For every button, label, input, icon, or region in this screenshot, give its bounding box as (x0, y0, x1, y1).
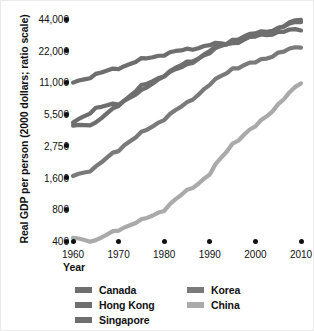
chart-figure: Real GDP per person (2000 dollars; ratio… (0, 0, 314, 331)
y-tick-dot (64, 80, 69, 85)
y-tick-dot (64, 17, 69, 22)
x-tick-dot (253, 239, 258, 244)
legend-item-label: Singapore (99, 314, 149, 326)
x-tick-dot (71, 239, 76, 244)
chart-legend: CanadaHong KongSingapore KoreaChina (75, 284, 295, 328)
x-tick-label: 2010 (290, 249, 312, 260)
legend-swatch-icon (75, 317, 92, 323)
legend-swatch-icon (187, 287, 204, 293)
legend-item[interactable]: Korea (187, 284, 295, 296)
x-tick-label: 1970 (107, 249, 129, 260)
y-tick-dot (64, 112, 69, 117)
legend-item[interactable]: Hong Kong (75, 299, 187, 311)
legend-swatch-icon (187, 302, 204, 308)
legend-swatch-icon (75, 302, 92, 308)
legend-item[interactable]: Canada (75, 284, 187, 296)
series-line-singapore (73, 22, 301, 126)
x-tick-dot (207, 239, 212, 244)
plot-area (1, 1, 314, 331)
legend-item-label: Korea (211, 284, 240, 296)
legend-column-right: KoreaChina (187, 284, 295, 328)
x-axis-title: Year (63, 261, 85, 273)
x-tick-label: 1960 (62, 249, 84, 260)
legend-item[interactable]: China (187, 299, 295, 311)
legend-item[interactable]: Singapore (75, 314, 187, 326)
x-tick-dot (162, 239, 167, 244)
series-line-canada (73, 29, 301, 83)
x-tick-dot (116, 239, 121, 244)
x-tick-label: 1990 (199, 249, 221, 260)
legend-item-label: China (211, 299, 240, 311)
y-tick-dot (64, 239, 69, 244)
legend-item-label: Canada (99, 284, 136, 296)
legend-item-label: Hong Kong (99, 299, 155, 311)
x-tick-label: 1980 (153, 249, 175, 260)
x-tick-dot (299, 239, 304, 244)
x-tick-label: 2000 (244, 249, 266, 260)
legend-swatch-icon (75, 287, 92, 293)
y-tick-dot (64, 207, 69, 212)
legend-column-left: CanadaHong KongSingapore (75, 284, 187, 328)
